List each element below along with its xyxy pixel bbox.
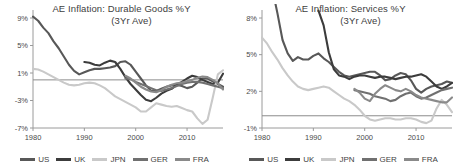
legend-label: GER xyxy=(151,155,168,164)
series-line-us xyxy=(272,0,452,93)
x-tick-label: 2000 xyxy=(356,133,373,142)
legend-item-fra[interactable]: FRA xyxy=(404,155,438,164)
series-line-jpn xyxy=(262,38,452,124)
legend-label: FRA xyxy=(193,155,209,164)
plot-area-durable-goods: 9%5%1%-3%-7%1980199020002010 xyxy=(0,0,229,145)
y-tick-label: 5% xyxy=(17,41,28,50)
inflation-charts-figure: AE Inflation: Durable Goods %Y (3Yr Ave)… xyxy=(0,0,458,168)
chart-panel-durable-goods: AE Inflation: Durable Goods %Y (3Yr Ave)… xyxy=(0,0,229,168)
legend-swatch-icon xyxy=(285,158,300,161)
y-tick-label: -3% xyxy=(15,96,29,105)
legend-swatch-icon xyxy=(20,158,35,161)
legend-swatch-icon xyxy=(321,158,336,161)
legend-item-uk[interactable]: UK xyxy=(285,155,314,164)
x-tick-label: 2000 xyxy=(127,133,144,142)
legend-item-ger[interactable]: GER xyxy=(133,155,168,164)
legend-item-us[interactable]: US xyxy=(20,155,49,164)
y-tick-label: -7% xyxy=(15,124,29,133)
legend-item-us[interactable]: US xyxy=(249,155,278,164)
y-tick-label: 8% xyxy=(246,14,257,23)
legend-swatch-icon xyxy=(249,158,264,161)
y-tick-label: 5% xyxy=(246,50,257,59)
legend-label: GER xyxy=(380,155,397,164)
chart-panel-services: AE Inflation: Services %Y (3Yr Ave) 8%5%… xyxy=(229,0,458,168)
legend-label: UK xyxy=(303,155,314,164)
plot-svg-durable-goods: 9%5%1%-3%-7%1980199020002010 xyxy=(0,0,229,145)
legend-swatch-icon xyxy=(362,158,377,161)
plot-area-services: 8%5%2%-1%1980199020002010 xyxy=(229,0,458,145)
legend-label: JPN xyxy=(339,155,354,164)
legend-item-ger[interactable]: GER xyxy=(362,155,397,164)
x-tick-label: 1990 xyxy=(76,133,93,142)
legend-label: US xyxy=(267,155,278,164)
x-tick-label: 1980 xyxy=(25,133,42,142)
series-line-uk xyxy=(84,61,223,102)
legend-swatch-icon xyxy=(404,158,419,161)
legend-label: US xyxy=(38,155,49,164)
legend-services: USUKJPNGERFRA xyxy=(229,155,458,164)
y-tick-label: 9% xyxy=(17,14,28,23)
x-tick-label: 2010 xyxy=(408,133,425,142)
y-tick-label: -1% xyxy=(244,124,258,133)
legend-item-uk[interactable]: UK xyxy=(56,155,85,164)
legend-item-jpn[interactable]: JPN xyxy=(92,155,125,164)
legend-durable-goods: USUKJPNGERFRA xyxy=(0,155,229,164)
series-line-uk xyxy=(318,11,452,89)
legend-item-fra[interactable]: FRA xyxy=(175,155,209,164)
legend-swatch-icon xyxy=(92,158,107,161)
y-tick-label: 2% xyxy=(246,87,257,96)
legend-item-jpn[interactable]: JPN xyxy=(321,155,354,164)
x-tick-label: 1990 xyxy=(305,133,322,142)
plot-svg-services: 8%5%2%-1%1980199020002010 xyxy=(229,0,458,145)
x-tick-label: 1980 xyxy=(254,133,271,142)
legend-label: FRA xyxy=(422,155,438,164)
legend-swatch-icon xyxy=(175,158,190,161)
y-tick-label: 1% xyxy=(17,69,28,78)
x-tick-label: 2010 xyxy=(179,133,196,142)
legend-label: JPN xyxy=(110,155,125,164)
legend-swatch-icon xyxy=(133,158,148,161)
legend-swatch-icon xyxy=(56,158,71,161)
legend-label: UK xyxy=(74,155,85,164)
